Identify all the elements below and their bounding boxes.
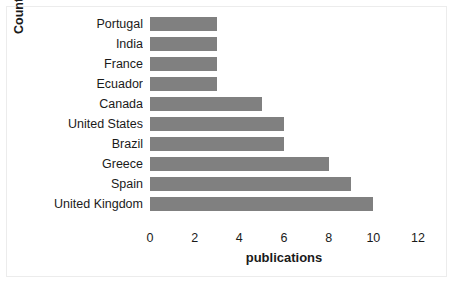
bar: [150, 157, 329, 171]
x-tick-label: 2: [175, 229, 215, 247]
bar-category-label: Spain: [0, 174, 143, 194]
bar: [150, 117, 284, 131]
bar-category-label: India: [0, 34, 143, 54]
bar: [150, 97, 262, 111]
bar: [150, 177, 351, 191]
bar: [150, 197, 373, 211]
bar: [150, 17, 217, 31]
x-axis-tick-labels: 024681012: [0, 229, 453, 247]
bar-category-label: Brazil: [0, 134, 143, 154]
bar-category-label: United States: [0, 114, 143, 134]
x-tick-label: 12: [398, 229, 438, 247]
x-tick-label: 8: [309, 229, 349, 247]
bar-category-label: Portugal: [0, 14, 143, 34]
x-tick-label: 4: [219, 229, 259, 247]
bar-category-label: Canada: [0, 94, 143, 114]
bar: [150, 57, 217, 71]
bar-category-label: France: [0, 54, 143, 74]
x-axis-title: publications: [150, 249, 418, 267]
plot-area: PortugalIndiaFranceEcuadorCanadaUnited S…: [0, 0, 453, 291]
x-tick-label: 10: [353, 229, 393, 247]
x-tick-label: 0: [130, 229, 170, 247]
bar: [150, 137, 284, 151]
bar-chart-figure: Country PortugalIndiaFranceEcuadorCanada…: [0, 0, 453, 291]
bar: [150, 37, 217, 51]
bar-category-label: Ecuador: [0, 74, 143, 94]
bar: [150, 77, 217, 91]
bar-category-label: United Kingdom: [0, 194, 143, 214]
x-tick-label: 6: [264, 229, 304, 247]
bar-category-label: Greece: [0, 154, 143, 174]
